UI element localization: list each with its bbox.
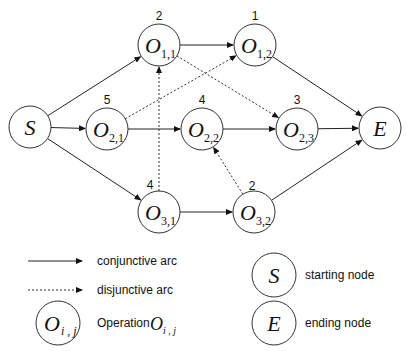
legend-operation-symbol: O	[150, 314, 163, 334]
node-label: O	[283, 117, 299, 142]
node-O11: O1,12	[138, 9, 180, 66]
disjunctive-arc-O11-O23	[177, 56, 278, 118]
legend-end-label: ending node	[305, 316, 371, 330]
node-O22: O2,24	[181, 93, 223, 150]
node-label: O	[145, 33, 161, 58]
node-subscript: 1,1	[161, 47, 176, 61]
node-weight: 3	[294, 93, 301, 107]
node-subscript: 1,2	[257, 47, 272, 61]
disjunctive-graph: SEO1,12O1,21O2,15O2,24O2,33O3,14O3,22 co…	[0, 0, 407, 351]
node-label: E	[372, 116, 387, 141]
svg-text:i , j: i , j	[61, 324, 77, 338]
disjunctive-arc-O21-O12	[125, 56, 236, 119]
legend-conjunctive-label: conjunctive arc	[97, 254, 177, 268]
legend-disjunctive-label: disjunctive arc	[97, 283, 173, 297]
node-label: S	[25, 115, 36, 140]
disjunctive-arc-O32-O22	[214, 148, 243, 195]
node-weight: 4	[147, 178, 154, 192]
node-subscript: 2,1	[109, 131, 124, 145]
node-O23: O2,33	[276, 93, 318, 150]
node-S: S	[9, 106, 51, 148]
node-subscript: 3,1	[161, 214, 176, 228]
conjunctive-arc-O12-E	[272, 57, 361, 116]
node-subscript: 2,3	[299, 131, 314, 145]
legend-end-node: E	[252, 301, 296, 345]
node-label: O	[188, 117, 204, 142]
node-weight: 1	[252, 9, 259, 23]
conjunctive-arc-S-O31	[48, 139, 141, 200]
legend-operation-label: Operation	[97, 316, 150, 330]
node-weight: 2	[249, 179, 256, 193]
legend-operation-sub: i , j	[163, 325, 176, 336]
node-O32: O3,22	[233, 179, 275, 233]
node-weight: 4	[199, 93, 206, 107]
conjunctive-arc-S-O11	[48, 57, 141, 116]
node-label: O	[93, 117, 109, 142]
node-weight: 5	[104, 93, 111, 107]
svg-text:O: O	[44, 311, 60, 336]
conjunctive-arc-S-O21	[51, 128, 85, 129]
node-label: O	[241, 33, 257, 58]
svg-text:S: S	[269, 263, 280, 288]
node-O12: O1,21	[234, 9, 276, 66]
conjunctive-arc-O32-E	[271, 140, 361, 200]
node-subscript: 2,2	[204, 131, 219, 145]
legend: conjunctive arc disjunctive arc O i , j …	[28, 253, 375, 345]
nodes-layer: SEO1,12O1,21O2,15O2,24O2,33O3,14O3,22	[9, 9, 401, 233]
legend-start-label: starting node	[305, 268, 375, 282]
node-O21: O2,15	[86, 93, 128, 150]
node-label: O	[240, 200, 256, 225]
svg-text:E: E	[266, 311, 281, 336]
legend-start-node: S	[252, 253, 296, 297]
node-subscript: 3,2	[256, 214, 271, 228]
node-weight: 2	[156, 9, 163, 23]
node-E: E	[359, 107, 401, 149]
legend-operation-node: O i , j	[36, 301, 80, 345]
node-label: O	[145, 200, 161, 225]
